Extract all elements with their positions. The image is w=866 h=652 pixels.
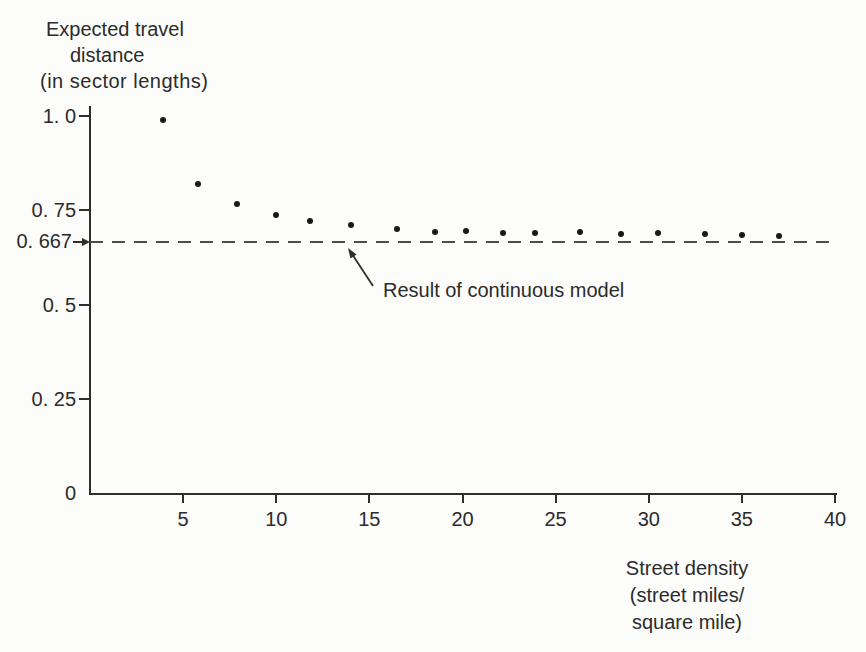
x-tick-mark [182, 495, 184, 503]
x-tick-label: 30 [619, 507, 679, 531]
x-tick-mark [462, 495, 464, 503]
y-axis-line [89, 106, 91, 495]
annotation-label: Result of continuous model [383, 279, 624, 302]
x-tick-label: 40 [805, 507, 865, 531]
data-point [532, 230, 538, 236]
y-tick-mark [79, 115, 90, 117]
x-tick-label: 20 [433, 507, 493, 531]
data-point [500, 230, 506, 236]
reference-line-label: 0. 667 [2, 229, 72, 253]
y-axis-title: Expected travel distance (in sector leng… [40, 16, 208, 94]
figure-canvas: Expected travel distance (in sector leng… [0, 0, 866, 652]
x-tick-label: 15 [339, 507, 399, 531]
y-tick-label: 0. 5 [4, 293, 76, 317]
data-point [234, 201, 240, 207]
y-tick-label: 0. 75 [4, 198, 76, 222]
y-tick-mark [79, 304, 90, 306]
y-axis-title-line-3: (in sector lengths) [40, 68, 208, 94]
x-tick-mark [555, 495, 557, 503]
y-axis-title-line-1: Expected travel [46, 16, 208, 42]
y-tick-mark [79, 209, 90, 211]
reference-line-arrow-icon [73, 236, 91, 248]
data-point [655, 230, 661, 236]
data-point [618, 231, 624, 237]
annotation-arrow-icon [342, 245, 378, 289]
y-tick-label: 0. 25 [4, 387, 76, 411]
x-tick-mark [834, 495, 836, 503]
x-tick-label: 10 [246, 507, 306, 531]
x-axis-title: Street density (street miles/ square mil… [587, 555, 787, 636]
data-point [739, 232, 745, 238]
reference-dashed-line [90, 241, 830, 243]
data-point [195, 181, 201, 187]
x-axis-title-line-2: (street miles/ [587, 582, 787, 609]
y-tick-mark [79, 398, 90, 400]
y-axis-title-line-2: distance [70, 42, 208, 68]
x-tick-label: 25 [526, 507, 586, 531]
data-point [160, 117, 166, 123]
data-point [463, 228, 469, 234]
x-tick-label: 5 [153, 507, 213, 531]
x-tick-mark [648, 495, 650, 503]
x-tick-mark [368, 495, 370, 503]
data-point [307, 218, 313, 224]
data-point [394, 226, 400, 232]
x-tick-mark [741, 495, 743, 503]
data-point [432, 229, 438, 235]
x-tick-mark [275, 495, 277, 503]
y-tick-label: 1. 0 [4, 104, 76, 128]
x-tick-label: 35 [712, 507, 772, 531]
x-axis-title-line-1: Street density [587, 555, 787, 582]
data-point [577, 229, 583, 235]
data-point [273, 212, 279, 218]
data-point [702, 231, 708, 237]
data-point [776, 233, 782, 239]
x-axis-title-line-3: square mile) [587, 609, 787, 636]
y-tick-label: 0 [4, 481, 76, 505]
data-point [348, 222, 354, 228]
